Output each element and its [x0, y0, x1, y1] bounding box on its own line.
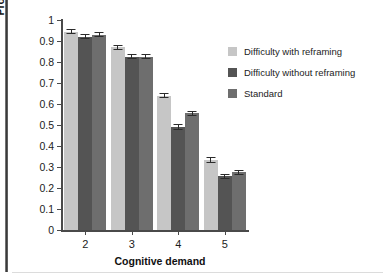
bar — [111, 47, 125, 230]
y-tick-label: 0.9 — [39, 35, 54, 47]
bar — [92, 35, 106, 230]
error-bar-cap-top — [81, 34, 90, 35]
y-tick-label: 0.5 — [39, 119, 54, 131]
error-bar-cap-bottom — [81, 38, 90, 39]
x-tick-mark — [225, 230, 226, 235]
legend-label: Difficulty with reframing — [244, 46, 342, 57]
y-tick-mark — [57, 188, 62, 189]
legend-label: Difficulty without reframing — [244, 67, 355, 78]
legend-item[interactable]: Difficulty without reframing — [228, 63, 355, 81]
bar-slot — [78, 20, 92, 230]
error-bar-cap-top — [220, 174, 229, 175]
bar-slot — [111, 20, 125, 230]
legend-item[interactable]: Difficulty with reframing — [228, 42, 355, 60]
error-bar — [234, 170, 243, 175]
bar — [185, 113, 199, 230]
error-bar — [206, 157, 215, 163]
bar-group — [111, 20, 153, 230]
legend-swatch-icon — [228, 47, 237, 56]
error-bar-cap-bottom — [141, 58, 150, 59]
bar-slot — [171, 20, 185, 230]
bar — [78, 37, 92, 230]
error-bar — [174, 124, 183, 129]
error-bar-cap-top — [234, 170, 243, 171]
error-bar-cap-bottom — [174, 129, 183, 130]
error-bar-cap-bottom — [127, 58, 136, 59]
x-axis-line — [61, 230, 249, 232]
error-bar-cap-top — [113, 45, 122, 46]
legend-label: Standard — [244, 88, 283, 99]
y-tick-mark — [57, 125, 62, 126]
bar-slot — [139, 20, 153, 230]
bar — [139, 57, 153, 230]
y-axis-title: Proportion of words recalled (WM span) — [0, 0, 20, 44]
error-bar — [220, 174, 229, 180]
error-bar — [67, 29, 76, 34]
y-tick-label: 0 — [48, 224, 54, 236]
error-bar-cap-bottom — [188, 115, 197, 116]
y-tick-mark — [57, 167, 62, 168]
error-bar-cap-top — [188, 111, 197, 112]
error-bar — [127, 54, 136, 59]
error-bar-cap-bottom — [206, 162, 215, 163]
y-tick-mark — [57, 41, 62, 42]
bar-slot — [64, 20, 78, 230]
error-bar-cap-bottom — [160, 97, 169, 98]
y-tick-label: 0.4 — [39, 140, 54, 152]
error-bar-cap-top — [141, 54, 150, 55]
y-tick-label: 0.1 — [39, 203, 54, 215]
bar-slot — [92, 20, 106, 230]
y-tick-label: 0.7 — [39, 77, 54, 89]
error-bar-cap-top — [160, 93, 169, 94]
bar — [232, 172, 246, 230]
x-tick-label: 5 — [222, 238, 228, 250]
figure-chart: Proportion of words recalled (WM span) C… — [0, 0, 383, 280]
plot-area: 00.10.20.30.40.50.60.70.80.912345 — [62, 20, 248, 230]
error-bar-cap-bottom — [234, 174, 243, 175]
y-tick-mark — [57, 20, 62, 21]
x-tick-mark — [178, 230, 179, 235]
error-bar-cap-top — [95, 32, 104, 33]
legend-swatch-icon — [228, 89, 237, 98]
y-tick-mark — [57, 104, 62, 105]
bar — [218, 176, 232, 230]
bar — [171, 127, 185, 230]
x-tick-label: 3 — [129, 238, 135, 250]
error-bar-cap-bottom — [220, 178, 229, 179]
bar-group — [64, 20, 106, 230]
y-tick-label: 0.6 — [39, 98, 54, 110]
bottom-rule — [12, 272, 383, 273]
y-tick-label: 1 — [48, 14, 54, 26]
y-tick-label: 0.3 — [39, 161, 54, 173]
bar — [125, 57, 139, 230]
error-bar-cap-bottom — [95, 36, 104, 37]
error-bar-cap-bottom — [67, 33, 76, 34]
error-bar-cap-top — [127, 54, 136, 55]
error-bar-cap-top — [67, 29, 76, 30]
error-bar — [95, 32, 104, 37]
x-tick-mark — [132, 230, 133, 235]
error-bar-cap-top — [174, 124, 183, 125]
y-tick-mark — [57, 230, 62, 231]
bar — [64, 32, 78, 230]
bar-slot — [157, 20, 171, 230]
bar-slot — [185, 20, 199, 230]
legend-item[interactable]: Standard — [228, 84, 355, 102]
y-tick-mark — [57, 62, 62, 63]
bar-group — [157, 20, 199, 230]
error-bar — [81, 34, 90, 39]
bar-slot — [125, 20, 139, 230]
bar-slot — [204, 20, 218, 230]
y-tick-label: 0.2 — [39, 182, 54, 194]
bar — [157, 96, 171, 230]
x-tick-label: 2 — [82, 238, 88, 250]
error-bar — [113, 45, 122, 50]
error-bar — [188, 111, 197, 116]
x-tick-mark — [85, 230, 86, 235]
y-tick-mark — [57, 83, 62, 84]
error-bar-cap-bottom — [113, 49, 122, 50]
y-tick-mark — [57, 209, 62, 210]
y-tick-mark — [57, 146, 62, 147]
chart-legend: Difficulty with reframingDifficulty with… — [228, 42, 355, 105]
x-tick-label: 4 — [175, 238, 181, 250]
